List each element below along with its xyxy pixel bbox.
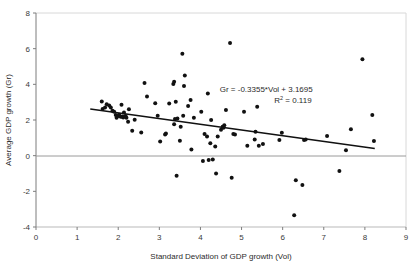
scatter-point	[360, 57, 364, 61]
scatter-point	[230, 176, 234, 180]
scatter-point	[189, 98, 193, 102]
x-tick-label-7: 7	[322, 233, 327, 242]
scatter-point	[181, 114, 185, 118]
scatter-point	[224, 108, 228, 112]
scatter-point	[253, 138, 257, 142]
scatter-point	[349, 127, 353, 131]
scatter-point	[207, 158, 211, 162]
scatter-point	[139, 130, 143, 134]
x-tick-label-9: 9	[404, 233, 409, 242]
scatter-point	[277, 138, 281, 142]
x-tick-label-5: 5	[239, 233, 244, 242]
scatter-chart: -4-202468 0123456789 Gr = -0.3355*Vol + …	[0, 0, 415, 267]
regression-equation-label: Gr = -0.3355*Vol + 3.1695	[220, 85, 314, 94]
scatter-point	[186, 104, 190, 108]
scatter-point	[211, 158, 215, 162]
y-tick-label--2: -2	[23, 187, 31, 196]
scatter-point	[100, 99, 104, 103]
y-tick-label-4: 4	[26, 80, 31, 89]
y-tick-label-2: 2	[26, 116, 31, 125]
scatter-point	[182, 84, 186, 88]
scatter-point	[130, 129, 134, 133]
scatter-point	[242, 110, 246, 114]
scatter-point	[300, 183, 304, 187]
scatter-point	[206, 92, 210, 96]
scatter-point	[175, 174, 179, 178]
x-axis-title: Standard Deviation of GDP growth (Vol)	[150, 252, 292, 261]
scatter-point	[205, 134, 209, 138]
x-tick-label-4: 4	[198, 233, 203, 242]
x-tick-label-3: 3	[157, 233, 162, 242]
scatter-point	[164, 132, 168, 136]
x-tick-label-0: 0	[34, 233, 39, 242]
chart-canvas: -4-202468 0123456789 Gr = -0.3355*Vol + …	[0, 0, 415, 267]
scatter-point	[127, 107, 131, 111]
scatter-point	[192, 116, 196, 120]
scatter-point	[233, 133, 237, 137]
scatter-point	[175, 117, 179, 121]
scatter-point	[179, 125, 183, 129]
scatter-point	[325, 134, 329, 138]
scatter-point	[216, 134, 220, 138]
scatter-point	[180, 52, 184, 56]
scatter-point	[292, 213, 296, 217]
scatter-point	[201, 159, 205, 163]
scatter-point	[213, 144, 217, 148]
scatter-point	[337, 169, 341, 173]
scatter-point	[153, 101, 157, 105]
scatter-point	[120, 103, 124, 107]
y-tick-label--4: -4	[23, 223, 31, 232]
scatter-point	[261, 142, 265, 146]
scatter-point	[183, 73, 187, 77]
r-squared-label: R2 = 0.119	[274, 95, 312, 105]
x-tick-label-1: 1	[75, 233, 80, 242]
y-tick-label-8: 8	[26, 9, 31, 18]
scatter-point	[255, 105, 259, 109]
scatter-point	[143, 81, 147, 85]
scatter-point	[372, 139, 376, 143]
x-tick-label-6: 6	[280, 233, 285, 242]
scatter-point	[174, 100, 178, 104]
scatter-point	[167, 102, 171, 106]
scatter-point	[199, 110, 203, 114]
scatter-point	[245, 144, 249, 148]
scatter-point	[228, 41, 232, 45]
scatter-point	[370, 113, 374, 117]
scatter-point	[214, 172, 218, 176]
y-axis-title: Average GDP growth (Gr)	[4, 74, 13, 166]
scatter-point	[158, 139, 162, 143]
scatter-point	[126, 120, 130, 124]
scatter-point	[145, 94, 149, 98]
scatter-point	[294, 178, 298, 182]
scatter-point	[172, 80, 176, 84]
scatter-point	[257, 144, 261, 148]
x-tick-label-2: 2	[116, 233, 121, 242]
scatter-point	[280, 131, 284, 135]
scatter-point	[133, 118, 137, 122]
x-tick-label-8: 8	[363, 233, 368, 242]
scatter-point	[156, 114, 160, 118]
scatter-point	[172, 122, 176, 126]
scatter-point	[189, 148, 193, 152]
scatter-point	[208, 141, 212, 145]
y-tick-label-0: 0	[26, 152, 31, 161]
scatter-point	[124, 116, 128, 120]
y-tick-label-6: 6	[26, 45, 31, 54]
scatter-point	[344, 148, 348, 152]
scatter-point	[178, 139, 182, 143]
scatter-point	[209, 118, 213, 122]
